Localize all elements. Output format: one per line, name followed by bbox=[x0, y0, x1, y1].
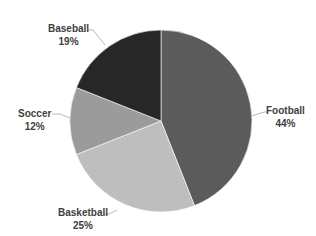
label-basketball-value: 25% bbox=[58, 219, 108, 232]
label-soccer-name: Soccer bbox=[18, 107, 51, 120]
label-football-name: Football bbox=[266, 104, 305, 117]
leader-line-baseball bbox=[88, 30, 105, 45]
label-football-value: 44% bbox=[266, 117, 305, 130]
label-soccer: Soccer 12% bbox=[18, 107, 51, 133]
label-basketball-name: Basketball bbox=[58, 206, 108, 219]
label-basketball: Basketball 25% bbox=[58, 206, 108, 232]
leader-line-soccer bbox=[52, 114, 70, 118]
label-baseball-value: 19% bbox=[48, 35, 89, 48]
label-baseball-name: Baseball bbox=[48, 22, 89, 35]
label-soccer-value: 12% bbox=[18, 120, 51, 133]
label-football: Football 44% bbox=[266, 104, 305, 130]
label-baseball: Baseball 19% bbox=[48, 22, 89, 48]
